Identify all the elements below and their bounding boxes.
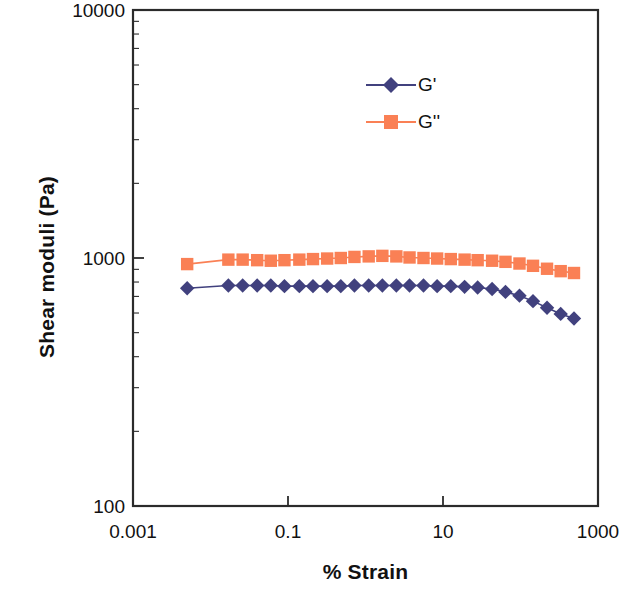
marker-square xyxy=(321,252,333,264)
marker-square xyxy=(471,254,483,266)
marker-square xyxy=(458,253,470,265)
marker-square xyxy=(541,263,553,275)
x-tick-label-0.001: 0.001 xyxy=(73,521,193,543)
marker-square xyxy=(568,267,580,279)
marker-square xyxy=(181,258,193,270)
marker-square xyxy=(251,254,263,266)
marker-square xyxy=(376,250,388,262)
y-tick-label-100: 100 xyxy=(30,496,125,518)
chart-figure: Shear moduli (Pa) % Strain 10000 1000 10… xyxy=(0,0,627,603)
marker-square xyxy=(486,255,498,267)
marker-square xyxy=(513,257,525,269)
legend-label-g-prime: G' xyxy=(418,74,436,96)
marker-square xyxy=(293,253,305,265)
marker-square xyxy=(335,252,347,264)
x-tick-label-0.1: 0.1 xyxy=(228,521,348,543)
marker-square xyxy=(554,265,566,277)
marker-square xyxy=(403,251,415,263)
x-axis-title: % Strain xyxy=(133,560,598,584)
marker-square xyxy=(236,253,248,265)
marker-square xyxy=(307,253,319,265)
marker-square xyxy=(265,255,277,267)
marker-square xyxy=(527,260,539,272)
marker-square xyxy=(278,254,290,266)
marker-square xyxy=(384,115,398,129)
marker-square xyxy=(431,252,443,264)
legend-label-g-double-prime: G'' xyxy=(418,111,440,133)
marker-square xyxy=(348,251,360,263)
marker-square xyxy=(417,252,429,264)
marker-square xyxy=(363,250,375,262)
marker-square xyxy=(445,253,457,265)
marker-square xyxy=(499,256,511,268)
x-tick-label-10: 10 xyxy=(383,521,503,543)
marker-square xyxy=(222,253,234,265)
y-tick-label-1000: 1000 xyxy=(30,248,125,270)
marker-square xyxy=(390,250,402,262)
x-tick-label-1000: 1000 xyxy=(538,521,627,543)
y-tick-label-10000: 10000 xyxy=(30,0,125,22)
